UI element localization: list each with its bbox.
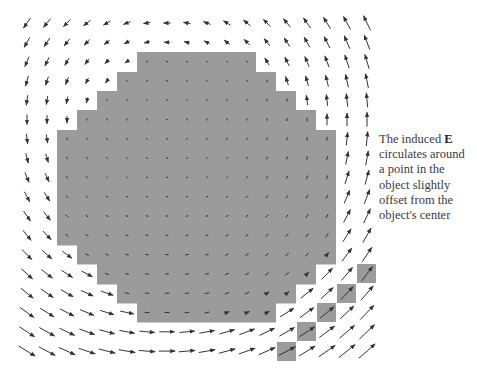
field-arrow bbox=[26, 134, 27, 144]
field-arrow bbox=[86, 97, 87, 103]
field-arrow bbox=[19, 346, 35, 356]
field-arrow bbox=[359, 344, 375, 358]
field-arrow bbox=[326, 95, 327, 106]
field-arrow bbox=[267, 99, 268, 102]
field-arrow bbox=[345, 171, 349, 184]
field-arrow bbox=[81, 290, 93, 296]
field-arrow bbox=[144, 22, 151, 23]
field-arrow bbox=[346, 74, 349, 87]
field-arrow bbox=[239, 329, 254, 335]
field-arrow bbox=[22, 269, 33, 279]
field-arrow bbox=[26, 76, 29, 86]
field-arrow bbox=[284, 19, 291, 28]
field-arrow bbox=[79, 329, 94, 335]
field-arrow bbox=[265, 58, 269, 65]
field-arrow bbox=[25, 172, 29, 182]
field-arrow bbox=[22, 250, 32, 260]
field-arrow bbox=[105, 60, 109, 64]
field-arrow bbox=[184, 22, 191, 23]
field-arrow bbox=[304, 37, 310, 47]
field-arrow bbox=[64, 39, 70, 46]
field-arrow bbox=[124, 22, 131, 25]
field-arrow bbox=[365, 170, 369, 184]
field-arrow bbox=[364, 16, 371, 30]
field-arrow bbox=[20, 308, 34, 318]
field-arrow bbox=[124, 41, 130, 44]
field-arrow bbox=[125, 60, 129, 63]
field-arrow bbox=[107, 99, 108, 101]
field-arrow bbox=[24, 211, 31, 221]
field-arrow bbox=[325, 56, 329, 67]
field-arrow bbox=[199, 350, 215, 353]
object-diagonal-cell bbox=[357, 264, 376, 283]
field-arrow bbox=[360, 305, 374, 319]
field-arrow bbox=[66, 77, 69, 84]
field-arrow bbox=[184, 42, 190, 43]
field-arrow bbox=[343, 229, 351, 242]
field-arrow bbox=[101, 291, 113, 295]
field-arrow bbox=[321, 288, 333, 299]
field-arrow bbox=[46, 96, 47, 105]
field-arrow bbox=[119, 350, 135, 353]
field-arrow bbox=[104, 40, 110, 44]
field-arrow bbox=[344, 210, 351, 223]
field-arrow bbox=[363, 228, 371, 242]
field-arrow bbox=[362, 247, 372, 261]
caption-line-1: The induced E bbox=[379, 132, 477, 147]
field-arrow bbox=[46, 154, 49, 163]
field-arrow bbox=[359, 325, 374, 339]
caption-line-2: circulates around bbox=[379, 147, 477, 162]
field-arrow bbox=[44, 19, 51, 28]
field-arrow bbox=[86, 78, 89, 84]
field-arrow bbox=[342, 248, 352, 261]
field-arrow bbox=[39, 328, 54, 337]
field-arrow bbox=[185, 293, 189, 294]
field-arrow bbox=[199, 330, 214, 333]
field-arrow bbox=[299, 346, 315, 356]
field-arrow bbox=[185, 254, 188, 255]
field-arrow bbox=[21, 288, 33, 298]
field-arrow bbox=[61, 290, 73, 297]
field-arrow bbox=[106, 79, 109, 83]
field-arrow bbox=[43, 231, 51, 240]
field-arrow bbox=[84, 40, 90, 46]
field-arrow bbox=[306, 95, 307, 105]
field-arrow bbox=[365, 54, 369, 68]
field-arrow bbox=[104, 21, 111, 25]
field-arrow bbox=[146, 61, 148, 62]
field-arrow bbox=[224, 21, 231, 25]
field-arrow bbox=[364, 35, 370, 49]
object-region bbox=[57, 130, 336, 246]
field-arrow bbox=[305, 57, 309, 67]
field-arrow bbox=[64, 19, 71, 26]
field-arrow bbox=[264, 19, 271, 26]
field-arrow bbox=[366, 132, 367, 146]
field-arrow bbox=[346, 132, 347, 145]
field-arrow bbox=[26, 153, 29, 163]
field-arrow bbox=[120, 311, 134, 314]
field-arrow bbox=[186, 61, 188, 62]
field-arrow bbox=[42, 250, 52, 259]
field-arrow bbox=[304, 18, 311, 28]
field-arrow bbox=[45, 57, 49, 66]
field-arrow bbox=[227, 138, 228, 140]
caption-line-4: object slightly bbox=[379, 178, 477, 193]
field-arrow bbox=[186, 177, 188, 178]
field-arrow bbox=[319, 345, 335, 356]
field-arrow bbox=[306, 76, 309, 86]
e-field-symbol: E bbox=[444, 132, 452, 146]
field-arrow bbox=[84, 20, 91, 26]
field-arrow bbox=[65, 58, 69, 65]
field-arrow bbox=[41, 289, 53, 298]
field-arrow bbox=[42, 270, 53, 279]
field-arrow bbox=[40, 308, 54, 317]
caption-line-6: object's center bbox=[379, 208, 477, 223]
field-arrow bbox=[139, 331, 154, 332]
field-arrow bbox=[24, 192, 29, 202]
field-arrow bbox=[239, 348, 255, 354]
field-arrow bbox=[324, 17, 331, 28]
field-arrow bbox=[224, 40, 230, 44]
field-arrow bbox=[361, 286, 373, 300]
field-arrow bbox=[344, 190, 349, 203]
field-arrow bbox=[59, 328, 74, 335]
